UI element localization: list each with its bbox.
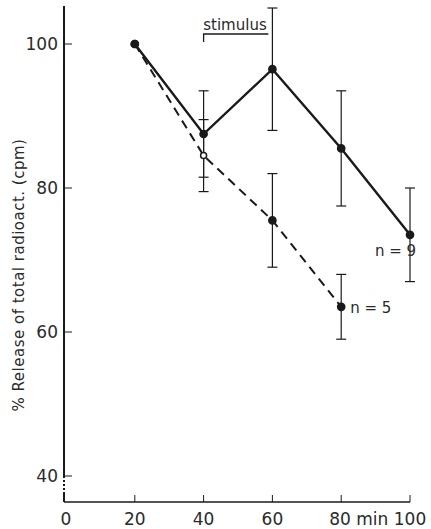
data-point — [269, 66, 276, 73]
series-layer: n = 9n = 5 — [131, 8, 416, 339]
stimulus-bracket — [204, 34, 269, 42]
x-tick-label: 60 — [262, 509, 284, 529]
data-point — [338, 145, 345, 152]
data-point — [269, 217, 276, 224]
y-tick-label: 40 — [36, 466, 58, 486]
x-tick-label: 80 min — [329, 509, 388, 529]
x-tick-label: 20 — [124, 509, 146, 529]
data-point — [131, 40, 138, 47]
y-tick-label: 80 — [36, 178, 58, 198]
y-axis-label: % Release of total radioact. (cpm) — [10, 139, 28, 412]
data-point — [201, 153, 207, 159]
series-label: n = 5 — [350, 299, 391, 317]
data-point — [338, 303, 345, 310]
data-point — [406, 231, 413, 238]
x-tick-label: 100 — [394, 509, 426, 529]
axes: 406080100020406080 min100% Release of to… — [10, 6, 426, 529]
x-tick-label: 40 — [193, 509, 215, 529]
line-chart: 406080100020406080 min100% Release of to… — [0, 0, 431, 529]
y-tick-label: 60 — [36, 322, 58, 342]
y-tick-label: 100 — [26, 34, 58, 54]
x-tick-label: 0 — [61, 509, 72, 529]
stimulus-label: stimulus — [203, 16, 267, 34]
series-label: n = 9 — [375, 242, 416, 260]
annotation-layer: stimulus — [203, 16, 268, 42]
